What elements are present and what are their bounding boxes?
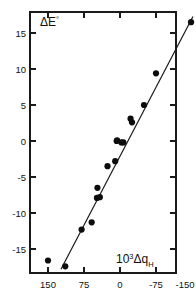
svg-text:103ΔqH: 103ΔqH (116, 252, 154, 269)
y-tick-label-0: 0 (21, 136, 26, 147)
x-axis-ticks-top (48, 12, 156, 18)
y-tick-label-minus10: -10 (12, 208, 26, 219)
x-tick-label-minus150: -150 (175, 279, 194, 290)
plot-frame (30, 12, 176, 273)
data-point (153, 70, 159, 76)
data-point (62, 263, 68, 269)
data-point (45, 257, 51, 263)
x-axis-title-subscript: H (148, 260, 153, 269)
x-tick-label-minus75: -75 (149, 279, 163, 290)
data-point (89, 219, 95, 225)
y-tick-labels: 15 10 5 0 -5 -10 -15 (12, 28, 26, 255)
x-tick-labels: 150 75 0 -75 -150 (40, 279, 194, 290)
data-point (188, 19, 194, 25)
y-axis-ticks (30, 33, 36, 249)
y-tick-label-minus15: -15 (12, 244, 26, 255)
data-point (112, 158, 118, 164)
y-axis-title-symbol: ΔE (40, 15, 56, 29)
data-point (79, 226, 85, 232)
y-axis-title: ΔE° (40, 15, 59, 29)
y-tick-label-minus5: -5 (18, 172, 26, 183)
x-tick-label-0: 0 (117, 279, 122, 290)
data-point (97, 194, 103, 200)
chart-canvas: 15 10 5 0 -5 -10 -15 150 75 0 -75 -150 Δ… (0, 0, 196, 300)
x-axis-title: 103ΔqH (116, 252, 154, 269)
data-point (104, 163, 110, 169)
y-axis-title-degree-icon: ° (56, 15, 59, 24)
scatter-plot-figure: 15 10 5 0 -5 -10 -15 150 75 0 -75 -150 Δ… (0, 0, 196, 300)
y-tick-label-10: 10 (15, 64, 26, 75)
data-point (127, 116, 133, 122)
x-axis-title-base: 10 (116, 252, 130, 266)
data-point (141, 102, 147, 108)
svg-text:ΔE°: ΔE° (40, 15, 59, 29)
data-point (94, 185, 100, 191)
data-point (120, 139, 126, 145)
y-tick-label-15: 15 (15, 28, 26, 39)
x-axis-title-symbol: Δq (134, 252, 149, 266)
y-axis-ticks-right (170, 33, 176, 249)
plot-border (30, 12, 176, 273)
x-tick-label-150: 150 (40, 279, 56, 290)
x-tick-label-75: 75 (79, 279, 90, 290)
y-tick-label-5: 5 (21, 100, 26, 111)
